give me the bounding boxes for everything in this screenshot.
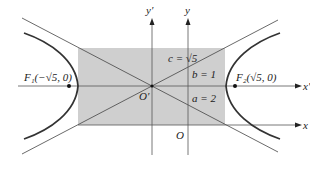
asymptote-negative-slope — [22, 18, 278, 152]
y-prime-label: y′ — [145, 4, 154, 16]
x-prime-arrow-icon — [295, 84, 302, 89]
focus-2-label: F₂(√5, 0) — [235, 71, 277, 84]
b-value-label: b = 1 — [192, 68, 216, 80]
y-prime-arrow-icon — [150, 18, 155, 25]
origin-label: O — [176, 129, 184, 141]
asymptote-positive-slope — [22, 20, 278, 154]
x-label: x — [302, 119, 308, 131]
focus-1-label: F₁(−√5, 0) — [23, 71, 72, 84]
x-prime-label: x′ — [302, 80, 310, 92]
focus-1-point — [67, 84, 71, 88]
a-value-label: a = 2 — [192, 92, 216, 104]
origin-prime-label: O′ — [139, 90, 150, 102]
hyperbola-diagram: y′ y x′ x O′ O c = √5 b = 1 a = 2 F₁(−√5… — [0, 0, 310, 169]
focus-2-point — [233, 84, 237, 88]
y-arrow-icon — [186, 18, 191, 25]
origin-prime-point — [150, 84, 153, 87]
x-arrow-icon — [295, 123, 302, 128]
c-value-label: c = √5 — [168, 52, 198, 64]
y-label: y — [184, 4, 190, 16]
